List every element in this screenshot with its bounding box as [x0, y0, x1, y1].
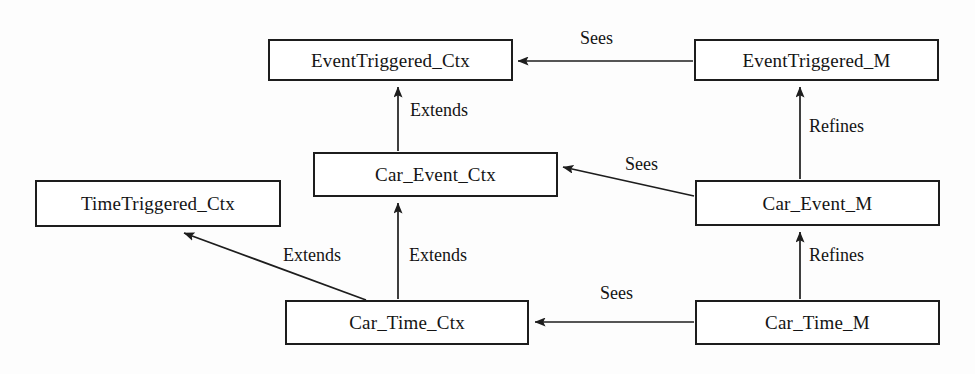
node-car-event-ctx[interactable]: Car_Event_Ctx	[313, 152, 558, 197]
node-car-time-ctx[interactable]: Car_Time_Ctx	[285, 300, 529, 345]
node-eventtriggered-ctx[interactable]: EventTriggered_Ctx	[268, 39, 513, 81]
node-label: Car_Time_M	[765, 313, 870, 332]
edge-label-extends-right: Extends	[409, 246, 467, 264]
node-timetriggered-ctx[interactable]: TimeTriggered_Ctx	[35, 180, 281, 227]
edge-label-sees-middle: Sees	[625, 155, 658, 173]
edge-label-sees-top: Sees	[580, 29, 613, 47]
node-label: EventTriggered_Ctx	[311, 51, 470, 70]
node-label: Car_Event_M	[763, 194, 873, 213]
edge-label-sees-bottom: Sees	[600, 284, 633, 302]
node-car-time-m[interactable]: Car_Time_M	[695, 300, 940, 345]
node-label: TimeTriggered_Ctx	[81, 194, 235, 213]
node-label: EventTriggered_M	[742, 51, 890, 70]
edge-extends-car-time-ctx-left	[184, 233, 366, 300]
edge-label-refines-upper: Refines	[809, 117, 864, 135]
edge-label-extends-upper: Extends	[410, 101, 468, 119]
edge-label-extends-left: Extends	[283, 246, 341, 264]
node-label: Car_Event_Ctx	[375, 165, 496, 184]
diagram-canvas: EventTriggered_Ctx EventTriggered_M Car_…	[0, 0, 975, 374]
edge-label-refines-lower: Refines	[809, 246, 864, 264]
node-label: Car_Time_Ctx	[349, 313, 465, 332]
node-eventtriggered-m[interactable]: EventTriggered_M	[694, 39, 939, 81]
node-car-event-m[interactable]: Car_Event_M	[695, 180, 940, 226]
